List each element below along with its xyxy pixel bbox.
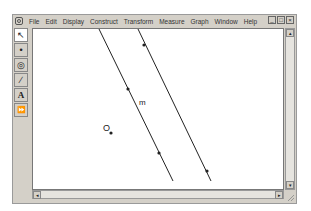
sketch-canvas[interactable]: m O xyxy=(32,28,284,190)
text-tool[interactable]: A xyxy=(14,88,28,102)
arrow-icon: ↖ xyxy=(17,30,25,40)
menu-construct[interactable]: Construct xyxy=(87,18,121,25)
sketchpad-window: File Edit Display Construct Transform Me… xyxy=(12,14,297,204)
custom-tool[interactable]: ⏩ xyxy=(14,103,28,117)
scroll-right-button[interactable]: ▸ xyxy=(275,191,283,199)
compass-tool[interactable]: ◎ xyxy=(14,58,28,72)
point-on-line-m-upper[interactable] xyxy=(126,87,129,90)
line-icon: ∕ xyxy=(20,75,22,85)
app-icon[interactable] xyxy=(15,17,23,25)
line-m[interactable] xyxy=(99,29,173,181)
scroll-left-button[interactable]: ◂ xyxy=(33,191,41,199)
scroll-up-button[interactable]: ▴ xyxy=(286,29,294,37)
point-on-line-m-lower[interactable] xyxy=(157,151,160,154)
vertical-scrollbar[interactable]: ▴ ▾ xyxy=(285,28,295,190)
menu-measure[interactable]: Measure xyxy=(156,18,187,25)
window-controls: _ □ × xyxy=(268,16,294,24)
line-m-label: m xyxy=(139,98,146,107)
straightedge-tool[interactable]: ∕ xyxy=(14,73,28,87)
point-o-label: O xyxy=(103,123,110,133)
menu-file[interactable]: File xyxy=(26,18,42,25)
menu-edit[interactable]: Edit xyxy=(42,18,59,25)
menu-window[interactable]: Window xyxy=(212,18,241,25)
maximize-button[interactable]: □ xyxy=(277,16,285,24)
text-icon: A xyxy=(18,90,25,100)
scroll-down-button[interactable]: ▾ xyxy=(286,181,294,189)
minimize-button[interactable]: _ xyxy=(268,16,276,24)
resize-grip-icon[interactable] xyxy=(287,194,295,202)
menu-graph[interactable]: Graph xyxy=(188,18,212,25)
circle-icon: ◎ xyxy=(17,60,25,70)
menu-transform[interactable]: Transform xyxy=(121,18,156,25)
selection-arrow-tool[interactable]: ↖ xyxy=(14,28,28,42)
point-on-parallel-upper[interactable] xyxy=(142,43,145,46)
menubar: File Edit Display Construct Transform Me… xyxy=(13,15,296,27)
horizontal-scrollbar[interactable]: ◂ ▸ xyxy=(32,190,284,199)
close-button[interactable]: × xyxy=(286,16,294,24)
toolbox: ↖ • ◎ ∕ A ⏩ xyxy=(14,28,28,117)
point-on-parallel-lower[interactable] xyxy=(205,169,208,172)
menu-display[interactable]: Display xyxy=(60,18,87,25)
point-icon: • xyxy=(19,45,22,55)
parallel-line[interactable] xyxy=(138,29,211,181)
geometry-drawing xyxy=(33,29,285,191)
point-tool[interactable]: • xyxy=(14,43,28,57)
fast-forward-icon: ⏩ xyxy=(17,106,26,114)
menu-help[interactable]: Help xyxy=(241,18,260,25)
